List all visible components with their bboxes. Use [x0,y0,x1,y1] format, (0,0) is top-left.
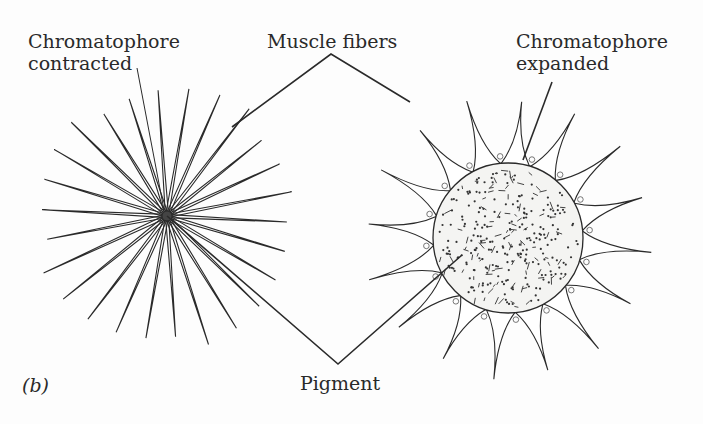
label-chromatophore-contracted: Chromatophore contracted [28,30,180,74]
label-pigment: Pigment [300,372,380,394]
label-chromatophore-expanded: Chromatophore expanded [516,30,668,74]
chromatophore-diagram: Chromatophore contracted Muscle fibers C… [0,0,703,424]
expanded-chromatophore [369,101,652,379]
panel-label: (b) [22,374,49,396]
label-muscle-fibers: Muscle fibers [267,30,397,52]
